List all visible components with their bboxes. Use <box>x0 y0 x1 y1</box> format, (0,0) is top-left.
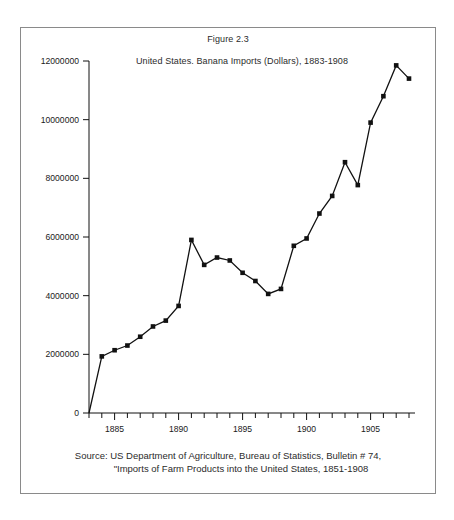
data-point-marker <box>266 292 271 297</box>
data-point-marker <box>215 255 220 260</box>
x-tick-label: 1895 <box>233 424 252 434</box>
data-point-marker <box>343 160 348 165</box>
source-line-2: "Imports of Farm Products into the Unite… <box>21 462 435 475</box>
data-point-marker <box>164 318 169 323</box>
data-point-marker <box>356 183 361 188</box>
data-point-marker <box>189 238 194 243</box>
y-tick-label: 8000000 <box>46 173 80 183</box>
y-tick-label: 0 <box>74 408 79 418</box>
data-point-marker <box>330 194 335 199</box>
y-tick-label: 10000000 <box>41 115 79 125</box>
x-axis: 18851890189519001905 <box>89 413 415 434</box>
data-point-marker <box>100 354 105 359</box>
chart-plot-area: 0200000040000006000000800000010000000120… <box>21 28 435 493</box>
data-point-marker <box>240 270 245 275</box>
data-point-marker <box>304 236 309 241</box>
y-tick-label: 6000000 <box>46 232 80 242</box>
y-axis: 0200000040000006000000800000010000000120… <box>41 56 89 418</box>
banana-imports-line-chart: 0200000040000006000000800000010000000120… <box>21 28 435 493</box>
figure-frame: Figure 2.3 United States. Banana Imports… <box>20 27 436 494</box>
data-point-marker <box>253 279 258 284</box>
y-tick-label: 4000000 <box>46 291 80 301</box>
x-tick-label: 1890 <box>169 424 188 434</box>
data-point-marker <box>125 343 130 348</box>
source-line-1: Source: US Department of Agriculture, Bu… <box>75 450 381 461</box>
y-tick-label: 2000000 <box>46 349 80 359</box>
data-point-marker <box>394 63 399 68</box>
x-tick-label: 1905 <box>361 424 380 434</box>
data-point-marker <box>381 94 386 99</box>
data-point-marker <box>138 334 143 339</box>
data-series-banana-imports <box>89 63 411 413</box>
source-note: Source: US Department of Agriculture, Bu… <box>21 449 435 475</box>
data-point-marker <box>112 348 117 353</box>
data-point-marker <box>202 263 207 268</box>
data-point-marker <box>292 244 297 249</box>
x-tick-label: 1900 <box>297 424 316 434</box>
data-point-marker <box>279 287 284 292</box>
y-tick-label: 12000000 <box>41 56 79 66</box>
data-point-marker <box>228 258 233 263</box>
data-point-marker <box>151 324 156 329</box>
screenshot-page: Figure 2.3 United States. Banana Imports… <box>0 0 454 520</box>
data-point-marker <box>368 120 373 125</box>
data-point-marker <box>407 76 412 81</box>
data-point-marker <box>176 304 181 309</box>
data-line <box>89 65 409 413</box>
x-tick-label: 1885 <box>105 424 124 434</box>
data-point-marker <box>317 211 322 216</box>
